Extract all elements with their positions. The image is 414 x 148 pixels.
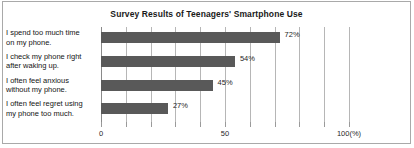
axis-tick-label: 100(%) <box>337 129 361 138</box>
axis-tick-label: 0 <box>99 129 103 138</box>
bar-value-label: 72% <box>285 30 300 39</box>
axis-tick-label: 50 <box>221 129 229 138</box>
tick-80 <box>299 122 300 127</box>
chart-title: Survey Results of Teenagers' Smartphone … <box>3 9 410 19</box>
gridline-100 <box>349 27 350 122</box>
category-label: I spend too much time on my phone. <box>6 28 99 47</box>
category-axis-labels: I spend too much time on my phone.I chec… <box>6 27 99 122</box>
tick-50 <box>225 122 226 127</box>
bar <box>101 80 213 91</box>
bar-value-label: 45% <box>218 78 233 87</box>
tick-10 <box>126 122 127 127</box>
category-label: I often feel regret using my phone too m… <box>6 99 99 118</box>
tick-100 <box>349 122 350 127</box>
tick-70 <box>275 122 276 127</box>
category-label: I check my phone right after waking up. <box>6 52 99 71</box>
bar <box>101 56 235 67</box>
tick-30 <box>175 122 176 127</box>
category-label: I often feel anxious without my phone. <box>6 76 99 95</box>
bar-series: 72%54%45%27% <box>101 27 349 122</box>
bar-value-label: 27% <box>173 101 188 110</box>
tick-20 <box>151 122 152 127</box>
bar <box>101 32 280 43</box>
tick-0 <box>101 122 102 127</box>
tick-90 <box>324 122 325 127</box>
bar-value-label: 54% <box>240 54 255 63</box>
tick-40 <box>200 122 201 127</box>
bar <box>101 103 168 114</box>
x-axis-labels: 050100(%) <box>0 129 414 141</box>
chart-screenshot: Survey Results of Teenagers' Smartphone … <box>0 0 414 148</box>
bar-row: 27% <box>101 98 349 122</box>
bar-row: 72% <box>101 27 349 51</box>
bar-row: 45% <box>101 75 349 99</box>
bar-row: 54% <box>101 51 349 75</box>
x-axis-ticks <box>101 122 349 127</box>
plot-area: 72%54%45%27% <box>101 27 349 122</box>
tick-60 <box>250 122 251 127</box>
